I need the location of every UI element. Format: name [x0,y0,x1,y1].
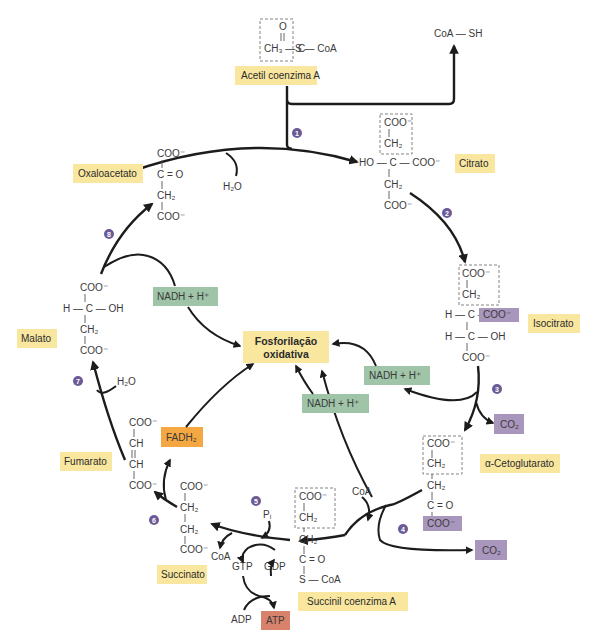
gdp-text: GDP [264,561,286,572]
svg-text:8: 8 [107,231,111,238]
svg-text:Fumarato: Fumarato [64,456,107,467]
succinate-label: Succinato [157,565,207,584]
adp-text: ADP [231,614,252,625]
nadh-step3-badge: NADH + H⁺ [364,366,430,385]
svg-text:2: 2 [445,210,449,217]
co2-step4-badge: CO₂ [475,540,507,560]
svg-text:CH₂: CH₂ [384,138,402,149]
nadh-step8-loop [104,254,175,286]
svg-text:Malato: Malato [21,333,51,344]
svg-text:COO⁻: COO⁻ [157,211,185,222]
svg-text:5: 5 [254,498,258,505]
h2o-step7: H₂O [117,376,136,387]
isocitrate-structure: COO⁻ CH₂ H — C — COO⁻ H — C — OH COO⁻ [445,265,519,363]
svg-text:CO₂: CO₂ [500,419,519,430]
step2-arrow [410,193,465,262]
nadh-step8-badge: NADH + H⁺ [153,287,218,306]
svg-text:C = O: C = O [157,169,184,180]
succinyl-coa-label: Succinil coenzima A [298,592,408,611]
step-badge-5: 5 [251,496,261,506]
svg-text:S — CoA: S — CoA [299,574,341,585]
svg-text:Isocitrato: Isocitrato [533,318,574,329]
svg-text:C = O: C = O [299,554,326,565]
malate-label: Malato [17,329,57,348]
svg-text:S — CoA: S — CoA [295,43,337,54]
pi-text: Pᵢ [263,509,272,520]
svg-text:COO⁻: COO⁻ [129,480,157,491]
coa-sh-text: CoA — SH [434,28,482,39]
svg-text:Oxaloacetato: Oxaloacetato [78,168,137,179]
fumarate-label: Fumarato [60,452,112,471]
nadh-step3-arrow [405,389,477,400]
svg-text:NADH + H⁺: NADH + H⁺ [369,370,421,381]
gtp-cycle-arrow [242,544,275,562]
svg-text:COO⁻: COO⁻ [462,352,490,363]
coa-step5-arrow [220,533,232,548]
gtp-text: GTP [232,561,253,572]
fadh2-to-oxphos-arrow [186,364,253,427]
svg-text:CO₂: CO₂ [482,545,501,556]
malate-structure: COO⁻ H — C — OH CH₂ COO⁻ [63,282,124,356]
coa-step4: CoA [352,486,372,497]
h2o-step1: H₂O [223,181,242,192]
acetyl-coa-entry-arrow [287,100,292,149]
fumarate-structure: COO⁻ CH CH COO⁻ [129,417,157,491]
svg-text:CH₂: CH₂ [427,480,445,491]
alpha-ketoglutarate-label: α-Cetoglutarato [480,454,560,473]
svg-text:CH₂: CH₂ [180,524,198,535]
succinate-structure: COO⁻ CH₂ CH₂ COO⁻ [180,481,208,555]
svg-text:NADH + H⁺: NADH + H⁺ [307,398,359,409]
svg-text:CH₂: CH₂ [462,289,480,300]
nadh-step4-arrow [322,371,372,497]
oxidative-phosphorylation-box: Fosforilação oxidativa [243,331,329,363]
svg-text:Succinil coenzima A: Succinil coenzima A [307,596,396,607]
svg-text:COO⁻: COO⁻ [180,481,208,492]
svg-text:COO⁻: COO⁻ [462,268,490,279]
isocitrate-label: Isocitrato [528,314,580,333]
svg-text:COO⁻: COO⁻ [129,417,157,428]
step-badge-3: 3 [492,384,502,394]
svg-text:COO⁻: COO⁻ [483,309,511,320]
svg-text:NADH + H⁺: NADH + H⁺ [157,291,209,302]
step5-arrow [212,524,290,540]
svg-text:CH: CH [129,438,143,449]
svg-text:COO⁻: COO⁻ [299,491,327,502]
svg-text:α-Cetoglutarato: α-Cetoglutarato [485,458,555,469]
svg-text:CH₂: CH₂ [384,179,402,190]
svg-text:COO⁻: COO⁻ [384,200,412,211]
alpha-ketoglutarate-structure: COO⁻ CH₂ CH₂ C = O COO⁻ [423,436,462,531]
svg-text:COO⁻: COO⁻ [157,148,185,159]
oxaloacetate-label: Oxaloacetato [73,164,143,183]
svg-text:6: 6 [152,517,156,524]
acetyl-coa-structure: O CH₃ — C S — CoA [260,19,337,61]
fadh2-arrow [164,460,170,500]
svg-text:oxidativa: oxidativa [263,348,309,360]
svg-text:Succinato: Succinato [161,569,205,580]
svg-text:COO⁻: COO⁻ [427,438,455,449]
step-badge-7: 7 [73,376,83,386]
step-badge-6: 6 [149,515,159,525]
svg-text:CH₂: CH₂ [299,512,317,523]
step-badge-1: 1 [292,128,302,138]
svg-text:C = O: C = O [427,500,454,511]
svg-text:CH₂: CH₂ [427,458,445,469]
svg-text:ATP: ATP [266,615,285,626]
nadh-step4-badge: NADH + H⁺ [302,394,369,413]
svg-text:CH₂: CH₂ [180,502,198,513]
acetyl-coa-label: Acetil coenzima A [235,66,320,85]
co2-step3-badge: CO₂ [494,414,524,434]
step-badge-4: 4 [398,524,408,534]
svg-text:3: 3 [495,386,499,393]
svg-text:H — C — OH: H — C — OH [63,303,124,314]
svg-text:HO — C — COO⁻: HO — C — COO⁻ [359,157,440,168]
svg-text:FADH₂: FADH₂ [166,432,197,443]
svg-text:Acetil coenzima A: Acetil coenzima A [241,70,320,81]
svg-text:CH₂: CH₂ [299,534,317,545]
coa-step5: CoA [211,551,231,562]
svg-text:COO⁻: COO⁻ [180,544,208,555]
step-badge-2: 2 [442,208,452,218]
svg-text:7: 7 [76,378,80,385]
co2-step3-arrow [476,402,493,423]
citrate-structure: COO⁻ CH₂ HO — C — COO⁻ CH₂ COO⁻ [359,114,440,211]
svg-text:1: 1 [295,130,299,137]
